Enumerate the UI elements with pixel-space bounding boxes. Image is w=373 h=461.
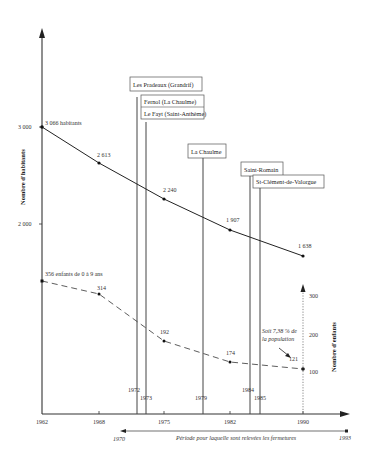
period-arrow-left-icon	[120, 429, 126, 433]
y2-axis: 300 200 100 Nombre d'enfants	[301, 284, 338, 414]
kid-label-1962: 356 enfants de 0 à 9 ans	[45, 271, 103, 277]
period-bracket: 1970 Période pour laquelle sont relevées…	[113, 429, 351, 442]
y2-tick-300: 300	[309, 293, 318, 299]
kid-point-1982	[229, 361, 232, 364]
box-fernol: Fernol (La Chaulme)	[144, 98, 196, 106]
x-tick-1975: 1975	[158, 419, 170, 425]
box-le-fayt: Le Fayt (Saint-Anthème)	[144, 110, 206, 118]
kid-label-1990: 121	[289, 356, 298, 362]
closure-year-1973: 1973	[140, 395, 152, 401]
pop-label-1990: 1 638	[298, 243, 312, 249]
y2-axis-title: Nombre d'enfants	[330, 322, 337, 372]
pop-point-1962	[40, 125, 44, 129]
closure-year-1984: 1984	[242, 387, 254, 393]
box-les-pradeaux: Les Pradeaux (Grandrif)	[133, 81, 193, 89]
pop-label-1962: 3 066 habitants	[45, 120, 82, 126]
kid-label-1982: 174	[226, 350, 235, 356]
y2-tick-200: 200	[309, 332, 318, 338]
period-end-marker-icon	[345, 430, 348, 433]
box-la-chaulme: La Chaulme	[191, 148, 222, 155]
series-population: 3 066 habitants 2 613 2 240 1 907 1 638	[40, 120, 311, 258]
annotation-note: Soit 7,38 % de la population	[262, 328, 297, 358]
series-children: 356 enfants de 0 à 9 ans 314 192 174 121	[41, 271, 305, 371]
x-tick-1962: 1962	[36, 419, 48, 425]
closure-year-1972: 1972	[128, 387, 140, 393]
period-label: Période pour laquelle sont relevées les …	[175, 435, 297, 441]
x-axis-arrow-icon	[340, 411, 350, 417]
pop-label-1975: 2 240	[163, 187, 177, 193]
closure-year-1985: 1985	[254, 395, 266, 401]
y2-axis-arrow-icon	[301, 284, 306, 292]
y-tick-3000: 3 000	[18, 124, 32, 130]
pop-point-1990	[301, 254, 304, 257]
note-line-1: Soit 7,38 % de	[262, 328, 297, 334]
pop-point-1975	[162, 197, 165, 200]
box-saint-romain: Saint-Romain	[244, 166, 278, 173]
closure-year-1979: 1979	[195, 395, 207, 401]
note-line-2: la population	[262, 336, 294, 342]
kid-point-1975	[163, 340, 166, 343]
x-tick-1982: 1982	[224, 419, 236, 425]
y-axis-title: Nombre d'habitants	[19, 149, 26, 205]
kid-point-1968	[98, 293, 101, 296]
x-axis: 1962 1968 1975 1982 1990	[36, 411, 350, 425]
period-end: 1993	[339, 435, 351, 441]
pop-point-1968	[97, 161, 100, 164]
box-st-clement: St-Clément-de-Valorgue	[256, 178, 317, 185]
y-tick-2000: 2 000	[18, 221, 32, 227]
y-axis: 3 000 2 000 Nombre d'habitants	[18, 28, 45, 414]
period-start: 1970	[113, 436, 125, 442]
closure-boxes: Les Pradeaux (Grandrif) Fernol (La Chaul…	[130, 77, 324, 188]
pop-label-1982: 1 907	[226, 217, 240, 223]
pop-point-1982	[228, 228, 231, 231]
kid-point-1962	[41, 280, 44, 283]
x-tick-1968: 1968	[93, 419, 105, 425]
pop-label-1968: 2 613	[97, 152, 111, 158]
y2-tick-100: 100	[309, 369, 318, 375]
line-chart: 3 000 2 000 Nombre d'habitants 1962 1968…	[0, 0, 373, 461]
kid-label-1975: 192	[160, 329, 169, 335]
x-tick-1990: 1990	[297, 419, 309, 425]
kid-label-1968: 314	[97, 285, 106, 291]
y-axis-arrow-icon	[39, 28, 45, 38]
